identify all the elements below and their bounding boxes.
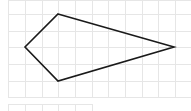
- grid-diagram: [0, 0, 191, 111]
